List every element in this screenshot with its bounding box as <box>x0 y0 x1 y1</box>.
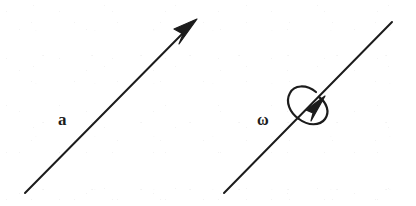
acceleration-vector-arrowhead <box>174 19 197 44</box>
acceleration-vector-label: a <box>58 111 67 128</box>
figure-root: a ω <box>0 0 416 206</box>
vector-diagram-svg <box>0 0 416 206</box>
angular-velocity-axis-line <box>224 22 392 193</box>
angular-velocity-group <box>224 22 392 193</box>
angular-velocity-label: ω <box>257 112 269 128</box>
rotation-loop-arc <box>288 86 327 124</box>
acceleration-vector-group <box>25 19 197 193</box>
acceleration-vector-shaft <box>25 27 189 193</box>
